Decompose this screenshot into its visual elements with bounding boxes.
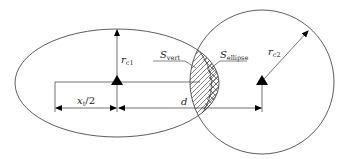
s-vert-leader bbox=[153, 61, 196, 68]
label-s-vert: Svert bbox=[160, 49, 180, 62]
label-xt-half: xt/2 bbox=[77, 95, 95, 108]
overlap-region bbox=[185, 20, 230, 140]
diagram-canvas: rc1 rc2 xt/2 d Svert Sellipse bbox=[0, 0, 343, 159]
center-marker-1-icon bbox=[111, 75, 123, 85]
s-ellipse-leader bbox=[211, 61, 247, 68]
label-d: d bbox=[181, 96, 187, 107]
label-r-c1: rc1 bbox=[121, 54, 134, 67]
label-s-ellipse: Sellipse bbox=[220, 49, 248, 62]
label-r-c2: rc2 bbox=[268, 46, 281, 59]
